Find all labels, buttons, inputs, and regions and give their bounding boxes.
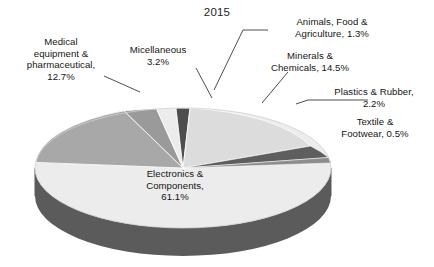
pie-chart: 2015 <box>0 0 434 267</box>
slice-label-medical: Medical equipment & pharmaceutical, 12.7… <box>6 36 116 82</box>
slice-label-plastics: Plastics & Rubber, 2.2% <box>316 86 432 109</box>
leader-line-miscellaneous <box>196 68 212 98</box>
slice-label-electronics: Electronics & Components, 61.1% <box>114 168 236 203</box>
slice-label-animals: Animals, Food & Agriculture, 1.3% <box>272 16 392 39</box>
slice-label-textile: Textile & Footwear, 0.5% <box>318 116 432 139</box>
slice-label-miscellaneous: Micellaneous 3.2% <box>108 44 208 67</box>
leader-line-minerals <box>262 72 288 103</box>
slice-label-minerals: Minerals & Chemicals, 14.5% <box>248 50 372 73</box>
